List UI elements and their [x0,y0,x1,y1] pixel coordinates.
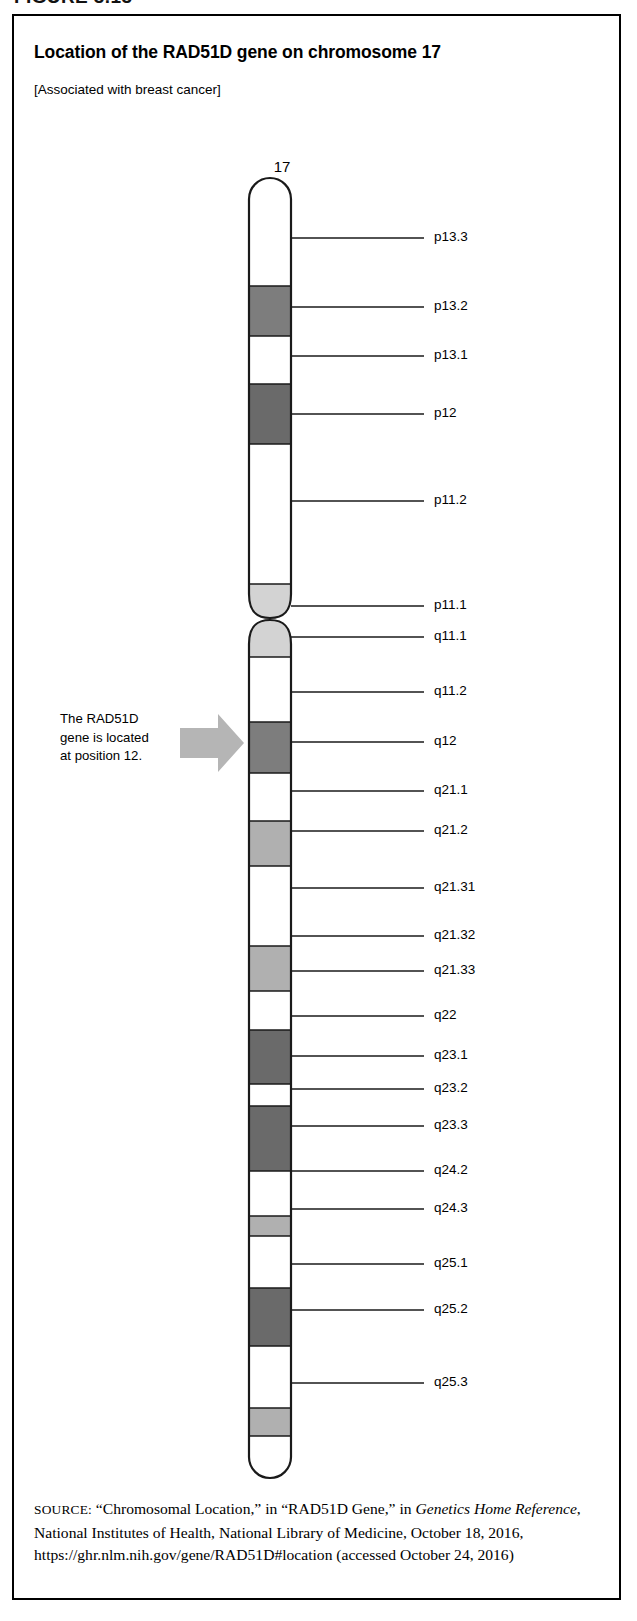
band-label-p11.2: p11.2 [434,493,467,507]
chromosome-q-arm-bands [244,616,296,1496]
annotation-line-3: at position 12. [60,747,180,766]
gene-location-annotation: The RAD51D gene is located at position 1… [60,710,180,766]
band-label-q21.33: q21.33 [434,963,475,977]
band-label-q21.2: q21.2 [434,823,468,837]
band-label-q11.1: q11.1 [434,629,467,643]
source-part-1: “Chromosomal Location,” in “RAD51D Gene,… [92,1500,416,1517]
chromosome-p-arm-outline [249,178,291,618]
band-label-q23.2: q23.2 [434,1081,468,1095]
band-label-q21.32: q21.32 [434,928,475,942]
annotation-arrow [180,714,244,772]
chromosome-ideogram [14,16,623,1602]
annotation-line-2: gene is located [60,729,180,748]
annotation-line-1: The RAD51D [60,710,180,729]
band-label-q25.1: q25.1 [434,1256,468,1270]
chromosome-number-label: 17 [254,158,310,175]
band-label-p13.1: p13.1 [434,348,468,362]
leader-lines [291,238,424,1383]
band-label-p12: p12 [434,406,457,420]
band-label-q21.31: q21.31 [434,880,475,894]
chromosome-p-arm-bands [244,186,296,624]
band-label-q25.3: q25.3 [434,1375,468,1389]
band-label-q24.2: q24.2 [434,1163,468,1177]
figure-subtitle: [Associated with breast cancer] [34,82,221,97]
band-label-q23.1: q23.1 [434,1048,468,1062]
band-label-q25.2: q25.2 [434,1302,468,1316]
source-kicker: SOURCE: [34,1502,92,1517]
source-note: SOURCE: “Chromosomal Location,” in “RAD5… [34,1498,606,1567]
band-label-p13.3: p13.3 [434,230,468,244]
band-label-p11.1: p11.1 [434,598,467,612]
band-label-p13.2: p13.2 [434,299,468,313]
page-title: Location of the RAD51D gene on chromosom… [34,42,441,63]
band-label-q21.1: q21.1 [434,783,468,797]
band-label-q22: q22 [434,1008,457,1022]
band-label-q11.2: q11.2 [434,684,467,698]
chromosome-q-arm-outline [249,620,291,1478]
band-label-q23.3: q23.3 [434,1118,468,1132]
source-italic-title: Genetics Home Reference [415,1500,576,1517]
band-label-q12: q12 [434,734,457,748]
figure-box: Location of the RAD51D gene on chromosom… [12,14,621,1600]
band-label-q24.3: q24.3 [434,1201,468,1215]
figure-caption: FIGURE 3.13 [14,0,132,8]
